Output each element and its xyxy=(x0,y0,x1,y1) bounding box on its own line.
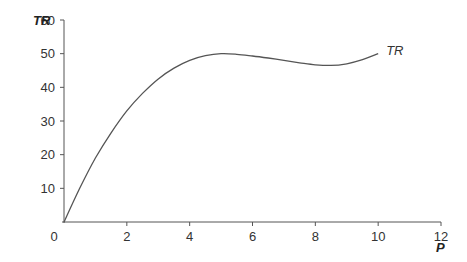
x-tick-label: 6 xyxy=(249,229,256,244)
tr-chart: 102030405060024681012 TR P TR xyxy=(0,0,467,262)
y-tick-label: 40 xyxy=(41,80,55,95)
y-axis-title: TR xyxy=(33,13,51,28)
tr-curve xyxy=(64,54,378,222)
x-tick-label: 0 xyxy=(50,229,57,244)
tr-series-label: TR xyxy=(386,43,403,58)
x-tick-label: 8 xyxy=(312,229,319,244)
y-tick-label: 30 xyxy=(41,114,55,129)
x-tick-label: 4 xyxy=(186,229,193,244)
x-tick-label: 10 xyxy=(371,229,385,244)
x-tick-label: 2 xyxy=(123,229,130,244)
y-tick-label: 10 xyxy=(41,181,55,196)
x-axis-title: P xyxy=(436,240,445,255)
y-tick-label: 50 xyxy=(41,46,55,61)
y-tick-label: 20 xyxy=(41,147,55,162)
